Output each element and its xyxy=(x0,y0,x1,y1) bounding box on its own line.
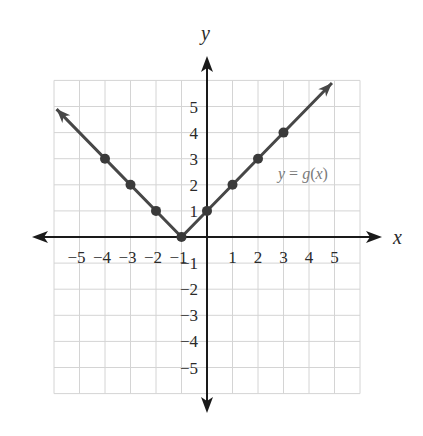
x-tick-label: −3 xyxy=(118,248,136,267)
data-point xyxy=(202,206,212,216)
x-tick-label: 2 xyxy=(254,248,263,267)
x-axis-label: x xyxy=(392,226,402,248)
y-tick-label: 5 xyxy=(190,98,199,117)
data-point xyxy=(126,180,136,190)
axes xyxy=(32,56,382,413)
function-label: y = g(x) xyxy=(276,165,328,183)
y-axis-label: y xyxy=(199,22,210,45)
data-point xyxy=(253,154,263,164)
y-tick-label: 4 xyxy=(190,124,199,143)
x-tick-label: 3 xyxy=(279,248,288,267)
y-tick-label: −2 xyxy=(180,280,198,299)
data-point xyxy=(177,232,187,242)
y-tick-label: −3 xyxy=(180,306,198,325)
x-tick-label: 1 xyxy=(228,248,237,267)
y-tick-label: 1 xyxy=(190,202,199,221)
x-tick-label: −5 xyxy=(67,248,85,267)
x-tick-label: −2 xyxy=(144,248,162,267)
y-tick-label: −1 xyxy=(180,254,198,273)
x-tick-label: 4 xyxy=(305,248,314,267)
x-tick-label: −4 xyxy=(93,248,112,267)
y-tick-label: 2 xyxy=(190,176,199,195)
coordinate-plane: −5−4−3−2−11234554321−1−2−3−4−5 x y y = g… xyxy=(0,0,423,436)
data-point xyxy=(151,206,161,216)
data-point xyxy=(279,128,289,138)
y-tick-label: 3 xyxy=(190,150,199,169)
data-point xyxy=(228,180,238,190)
y-tick-label: −5 xyxy=(180,359,198,378)
x-tick-label: 5 xyxy=(330,248,339,267)
data-point xyxy=(100,154,110,164)
y-tick-label: −4 xyxy=(180,332,199,351)
